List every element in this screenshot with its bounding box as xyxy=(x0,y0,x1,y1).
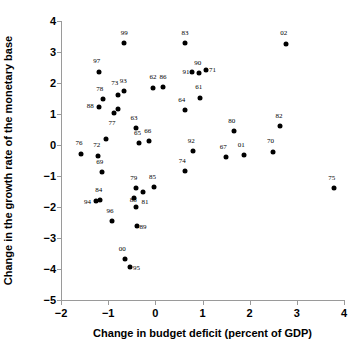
data-point xyxy=(284,41,289,46)
data-point-label: 66 xyxy=(144,127,151,135)
data-point-label: 69 xyxy=(96,158,103,166)
data-point xyxy=(160,85,165,90)
x-tick xyxy=(155,300,156,305)
data-point xyxy=(270,149,275,154)
data-point-label: 79 xyxy=(130,174,137,182)
x-tick xyxy=(250,300,251,305)
plot-area: −5−4−3−2−101234 −2−101234 99830297919071… xyxy=(61,21,344,300)
data-point-label: 72 xyxy=(93,141,100,149)
y-tick-label: −1 xyxy=(43,170,56,182)
y-tick xyxy=(57,176,62,177)
data-point-label: 85 xyxy=(149,173,156,181)
data-point xyxy=(122,257,127,262)
data-point-label: 78 xyxy=(96,85,103,93)
data-point xyxy=(152,185,157,190)
data-point xyxy=(99,169,104,174)
y-tick xyxy=(57,145,62,146)
y-tick xyxy=(57,238,62,239)
data-point-label: 82 xyxy=(275,112,282,120)
scatter-chart: −5−4−3−2−101234 −2−101234 99830297919071… xyxy=(0,0,361,357)
x-tick xyxy=(297,300,298,305)
data-point-label: 91 xyxy=(182,68,189,76)
x-tick-label: 2 xyxy=(247,307,253,319)
data-point xyxy=(96,69,101,74)
data-point xyxy=(109,219,114,224)
data-point-label: 75 xyxy=(328,174,335,182)
x-tick-label: 1 xyxy=(199,307,205,319)
y-tick-label: 1 xyxy=(50,108,56,120)
data-point xyxy=(191,149,196,154)
data-point-label: 64 xyxy=(178,96,185,104)
data-point xyxy=(182,107,187,112)
data-point-label: 80 xyxy=(228,117,235,125)
data-point xyxy=(115,107,120,112)
data-point-label: 61 xyxy=(195,83,202,91)
data-point-label: 01 xyxy=(238,141,245,149)
data-point xyxy=(183,40,188,45)
data-point-label: 93 xyxy=(120,77,127,85)
y-tick xyxy=(57,114,62,115)
data-point xyxy=(183,169,188,174)
data-point-label: 77 xyxy=(108,119,115,127)
data-point-label: 76 xyxy=(75,139,82,147)
y-tick-label: −5 xyxy=(43,294,56,306)
data-point xyxy=(101,97,106,102)
data-point-label: 94 xyxy=(84,198,91,206)
y-axis-line xyxy=(61,21,62,300)
data-point xyxy=(111,111,116,116)
y-tick xyxy=(57,207,62,208)
data-point-label: 88 xyxy=(130,196,137,204)
y-tick xyxy=(57,52,62,53)
data-point-label: 74 xyxy=(179,157,186,165)
data-point xyxy=(137,140,142,145)
data-point xyxy=(331,185,336,190)
data-point-label: 83 xyxy=(182,29,189,37)
data-point-label: 97 xyxy=(93,57,100,65)
data-point xyxy=(196,70,201,75)
data-point-label: 73 xyxy=(111,79,118,87)
data-point-label: 00 xyxy=(119,245,126,253)
data-point xyxy=(122,40,127,45)
data-point-label: 88 xyxy=(87,102,94,110)
data-point-label: 86 xyxy=(159,73,166,81)
data-point-label: 92 xyxy=(188,137,195,145)
data-point xyxy=(224,155,229,160)
data-point-label: 70 xyxy=(267,137,274,145)
x-tick-label: 0 xyxy=(152,307,158,319)
y-tick-label: 3 xyxy=(50,46,56,58)
y-tick-label: −4 xyxy=(43,263,56,275)
data-point xyxy=(190,70,195,75)
data-point xyxy=(104,137,109,142)
x-tick-label: −2 xyxy=(55,307,68,319)
data-point-label: 96 xyxy=(107,207,114,215)
data-point xyxy=(241,152,246,157)
data-point xyxy=(79,151,84,156)
y-tick xyxy=(57,83,62,84)
y-tick-label: 2 xyxy=(50,77,56,89)
data-point-label: 89 xyxy=(140,223,147,231)
y-tick xyxy=(57,269,62,270)
data-point-label: 62 xyxy=(149,73,156,81)
x-tick-label: 4 xyxy=(341,307,347,319)
data-point-label: 81 xyxy=(141,198,148,206)
data-point xyxy=(115,93,120,98)
data-point-label: 67 xyxy=(220,143,227,151)
data-point xyxy=(141,189,146,194)
x-tick xyxy=(61,300,62,305)
data-point xyxy=(146,138,151,143)
data-point-label: 63 xyxy=(131,114,138,122)
y-axis-title: Change in the growth rate of the monetar… xyxy=(2,21,16,300)
data-point-label: 84 xyxy=(95,186,102,194)
x-tick-label: 3 xyxy=(294,307,300,319)
y-tick-label: 4 xyxy=(50,15,56,27)
x-tick xyxy=(108,300,109,305)
x-axis-title: Change in budget deficit (percent of GDP… xyxy=(61,327,344,339)
data-point xyxy=(96,104,101,109)
data-point xyxy=(150,85,155,90)
y-tick-label: −3 xyxy=(43,232,56,244)
data-point xyxy=(231,129,236,134)
data-point-label: 65 xyxy=(134,129,141,137)
y-tick xyxy=(57,21,62,22)
x-tick xyxy=(203,300,204,305)
y-tick-label: −2 xyxy=(43,201,56,213)
